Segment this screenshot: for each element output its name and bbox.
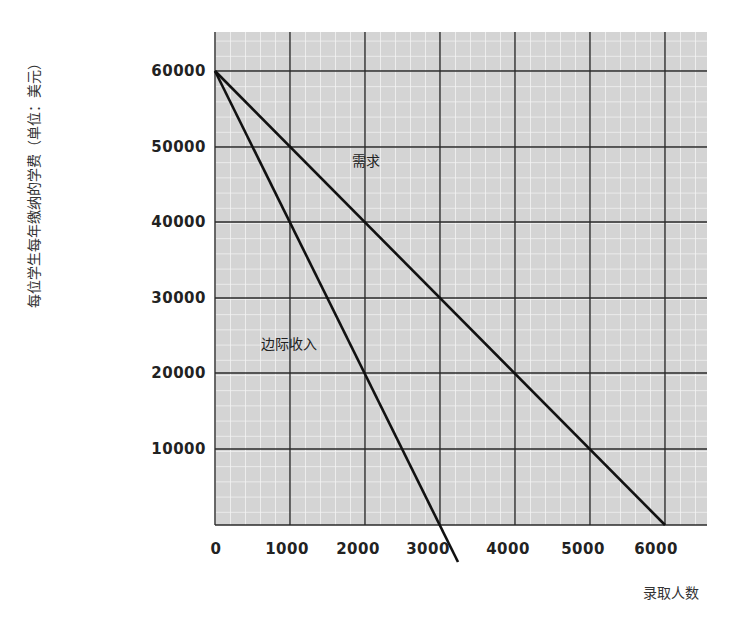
x-tick-3000: 3000 xyxy=(406,540,450,558)
y-tick-60000: 60000 xyxy=(151,62,206,80)
x-tick-6000: 6000 xyxy=(634,540,678,558)
x-tick-5000: 5000 xyxy=(561,540,605,558)
y-tick-50000: 50000 xyxy=(151,138,206,156)
y-tick-10000: 10000 xyxy=(151,440,206,458)
plot-area xyxy=(215,32,707,525)
y-tick-20000: 20000 xyxy=(151,364,206,382)
x-tick-1000: 1000 xyxy=(265,540,309,558)
x-tick-0: 0 xyxy=(211,540,222,558)
x-tick-2000: 2000 xyxy=(336,540,380,558)
x-tick-4000: 4000 xyxy=(486,540,530,558)
x-axis-label: 录取人数 xyxy=(643,582,699,602)
y-tick-40000: 40000 xyxy=(151,213,206,231)
marginal-revenue-annotation: 边际收入 xyxy=(261,333,317,353)
demand-annotation: 需求 xyxy=(352,150,380,170)
chart-plot xyxy=(0,0,746,628)
y-tick-30000: 30000 xyxy=(151,289,206,307)
